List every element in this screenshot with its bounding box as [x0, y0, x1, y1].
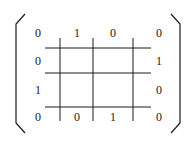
matrix-cell-r3-c3: 0 — [151, 110, 167, 124]
matrix-cell-r1-c1 — [69, 54, 85, 68]
matrix-cell-r3-c1: 0 — [69, 110, 85, 124]
matrix-cell-r3-c0: 0 — [30, 110, 46, 124]
left-bracket — [16, 14, 25, 133]
matrix-cell-r0-c2: 0 — [105, 26, 121, 40]
matrix-cell-r2-c2 — [105, 83, 121, 97]
matrix-cell-r0-c1: 1 — [69, 26, 85, 40]
matrix-cell-r2-c3: 0 — [151, 83, 167, 97]
matrix-diagram: 0 1 0 0 0 1 1 0 0 0 1 0 — [0, 0, 195, 142]
matrix-cell-r0-c3: 0 — [151, 26, 167, 40]
matrix-cell-r1-c3: 1 — [151, 54, 167, 68]
matrix-cell-r1-c0: 0 — [30, 54, 46, 68]
matrix-cell-r0-c0: 0 — [30, 26, 46, 40]
right-bracket — [171, 14, 180, 133]
matrix-cell-r1-c2 — [105, 54, 121, 68]
matrix-cell-r2-c0: 1 — [30, 83, 46, 97]
matrix-cell-r2-c1 — [69, 83, 85, 97]
matrix-cell-r3-c2: 1 — [105, 110, 121, 124]
